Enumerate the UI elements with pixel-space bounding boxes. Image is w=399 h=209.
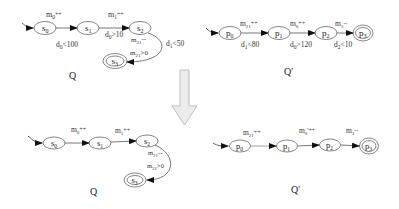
caption-q-bottom: Q (90, 186, 98, 197)
state-p2: p2 (320, 139, 341, 151)
label-m0prime-inc: m0'++ (299, 126, 316, 136)
label-m0-inc: m0++ (71, 125, 87, 135)
label-d1-lt-50: d1<50 (166, 39, 184, 49)
label-m3-dec: m3-- (335, 19, 347, 29)
caption-qprime-top: Q' (284, 66, 293, 77)
label-m21-inc: m21++ (240, 19, 258, 29)
label-m21-inc: m21++ (243, 128, 261, 138)
state-p0: p0 (219, 27, 241, 40)
label-m0-inc: m0++ (46, 10, 62, 20)
edge-s1-s2 (111, 141, 136, 142)
state-s3-final: s3 (124, 173, 146, 187)
automaton-qprime-top: p0 p1 p2 p3 m21++ m0++ m3-- d1<80 d0>120… (206, 19, 373, 77)
label-m3-dec: m3-- (346, 126, 358, 136)
label-d1-lt-80: d1<80 (241, 40, 259, 50)
initial-arrow (206, 28, 218, 33)
state-p1: p1 (268, 27, 290, 40)
edge-p1-p2 (298, 145, 319, 146)
initial-arrow (22, 23, 33, 28)
transform-arrow-down-icon (172, 70, 197, 125)
state-p3-final: p3 (360, 138, 379, 154)
initial-arrow (213, 143, 228, 146)
label-d0-lt-100: d0<100 (56, 40, 78, 50)
label-m1-inc: m1++ (108, 10, 124, 20)
caption-q-top: Q (69, 70, 77, 81)
caption-qprime-bottom: Q' (291, 184, 300, 195)
label-d0-gt-120: d0>120 (290, 40, 312, 50)
state-s2: s2 (129, 22, 151, 35)
label-m21-dec: m21-- (148, 149, 162, 158)
label-m21-dec: m21-- (131, 35, 147, 45)
label-m0-inc: m0++ (290, 19, 306, 29)
label-m1-inc: m1++ (115, 126, 131, 136)
state-s1: s1 (77, 22, 99, 35)
initial-arrow (28, 136, 42, 143)
state-p3-final: p3 (353, 25, 373, 41)
label-d0-gt-10: d0>10 (105, 30, 123, 40)
label-m21-gt-0: m21>0 (147, 162, 164, 171)
automaton-q-bottom: s0 s1 s2 s3 m0++ m1++ m21-- m21>0 Q (28, 125, 171, 197)
state-s0: s0 (34, 22, 56, 35)
label-m21-gt-0: m21>0 (130, 49, 148, 58)
state-s2: s2 (136, 135, 158, 147)
label-d2-lt-10: d2<10 (334, 40, 352, 50)
automaton-q-top: s0 s1 s2 s3 m0++ m1++ d0<100 d0>10 m21--… (22, 10, 184, 81)
automaton-qprime-bottom: p0 p1 p2 p3 m21++ m0'++ m3-- Q' (213, 126, 379, 195)
state-s0: s0 (43, 137, 65, 149)
diagram-canvas: s0 s1 s2 s3 m0++ m1++ d0<100 d0>10 m21--… (0, 0, 399, 209)
state-s3-final: s3 (103, 54, 127, 69)
state-p2: p2 (315, 27, 337, 40)
state-s1: s1 (89, 137, 111, 149)
state-p1: p1 (277, 140, 298, 152)
edge-p2-p3 (341, 145, 359, 146)
state-p0: p0 (230, 140, 251, 152)
